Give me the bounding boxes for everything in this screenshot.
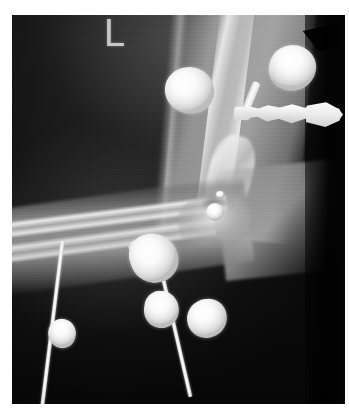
- fragment-joint-small: [216, 191, 224, 198]
- laterality-marker-l: L: [104, 16, 134, 52]
- xray-page: L: [0, 0, 349, 418]
- fragment-joint: [206, 203, 224, 221]
- radiograph-image: L: [12, 15, 345, 404]
